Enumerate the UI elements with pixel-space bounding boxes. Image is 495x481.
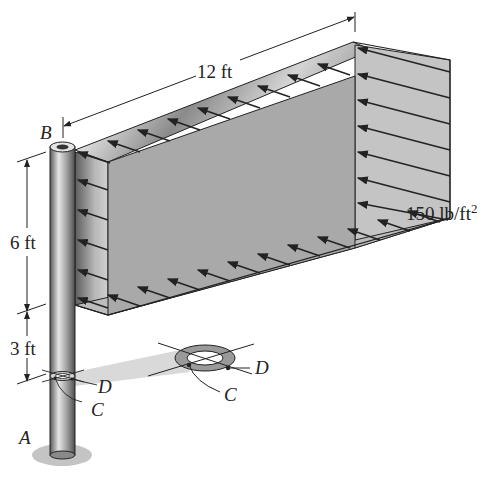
sign-left-pressure-face [75, 152, 108, 315]
pipe-bottom-edge [50, 451, 75, 459]
sign-panel [108, 76, 355, 315]
diagram-canvas [0, 0, 495, 481]
label-point-d: D [98, 377, 112, 396]
label-point-a: A [19, 428, 31, 447]
section-detail-beam [75, 350, 190, 386]
pressure-value: 150 lb/ft [406, 203, 471, 224]
dimension-post-below: 3 ft [10, 339, 36, 358]
pipe-top-hole [57, 144, 69, 149]
label-point-b: B [40, 123, 52, 142]
pipe-post [50, 147, 75, 455]
pressure-exponent: 2 [471, 201, 478, 216]
label-point-c-detail: C [224, 385, 237, 404]
label-point-c: C [91, 400, 104, 419]
pressure-load-label: 150 lb/ft2 [406, 204, 477, 223]
label-point-d-detail: D [255, 358, 269, 377]
dimension-sign-height: 6 ft [10, 233, 36, 252]
dimension-sign-length: 12 ft [197, 62, 232, 81]
